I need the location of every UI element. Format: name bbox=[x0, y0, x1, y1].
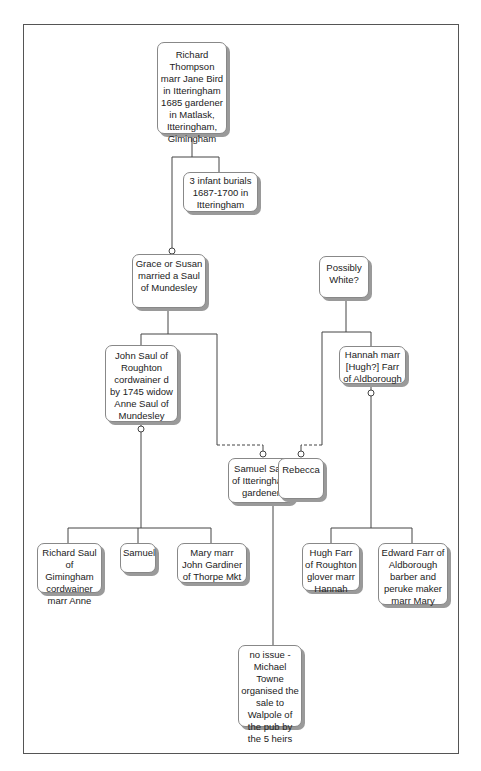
node-rebecca: Rebecca bbox=[278, 458, 324, 499]
node-richard-saul: Richard Saul of Gimingham cordwainer mar… bbox=[37, 543, 102, 593]
node-grace-or-susan: Grace or Susan married a Saul of Mundesl… bbox=[132, 254, 206, 308]
node-richard-thompson: Richard Thompson marr Jane Bird in Itter… bbox=[157, 42, 227, 134]
node-no-issue: no issue - Michael Towne organised the s… bbox=[238, 645, 302, 727]
node-hannah: Hannah marr [Hugh?] Farr of Aldborough bbox=[339, 346, 406, 384]
node-samuel: Samuel bbox=[120, 543, 156, 573]
node-edward-farr: Edward Farr of Aldborough barber and per… bbox=[378, 543, 448, 605]
node-possibly-white: Possibly White? bbox=[319, 256, 369, 298]
node-infant-burials: 3 infant burials 1687-1700 in Itteringha… bbox=[183, 172, 258, 212]
node-mary: Mary marr John Gardiner of Thorpe Mkt bbox=[177, 543, 247, 583]
node-john-saul: John Saul of Roughton cordwainer d by 17… bbox=[105, 345, 178, 422]
node-hugh-farr: Hugh Farr of Roughton glover marr Hannah bbox=[302, 543, 360, 591]
